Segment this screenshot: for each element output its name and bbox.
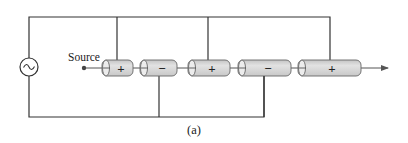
drift-tube-4: − <box>238 60 291 76</box>
source-dot <box>82 66 86 70</box>
polarity-label: + <box>208 61 215 76</box>
polarity-label: − <box>264 61 271 76</box>
source-label: Source <box>68 51 100 63</box>
polarity-label: − <box>158 61 165 76</box>
bottom-wire <box>29 76 264 117</box>
drift-tube-5: + <box>298 60 361 76</box>
drift-tube-3: + <box>188 60 230 76</box>
polarity-label: + <box>328 61 335 76</box>
figure-caption: (a) <box>187 123 201 137</box>
polarity-label: + <box>117 61 124 76</box>
drift-tube-1: + <box>102 60 133 76</box>
linac-diagram: Source + − + <box>0 0 408 143</box>
drift-tube-2: − <box>140 60 177 76</box>
ac-source <box>20 58 38 76</box>
